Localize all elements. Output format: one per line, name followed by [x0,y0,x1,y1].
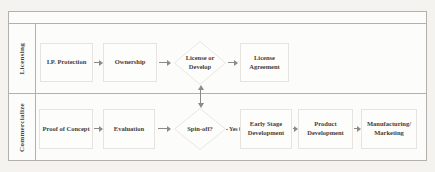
lane-label-commercialize: Commercialize [18,103,26,152]
decision-license-or-develop: License or Develop [174,41,226,85]
double-arrow-icon [197,85,204,108]
node-ownership-label: Ownership [115,58,146,67]
right-arrow-icon [354,125,361,132]
lane-commercialize: Commercialize Proof of Concept Evaluatio… [9,94,426,160]
frame-header-strip [9,12,426,24]
node-ownership: Ownership [103,43,157,82]
right-arrow-icon [94,125,103,132]
lane-content-licensing: I.P. Protection Ownership License or Dev… [36,24,426,93]
lane-label-licensing: Licensing [18,43,26,74]
node-ip-protection: I.P. Protection [40,43,93,82]
node-proof-of-concept-label: Proof of Concept [42,125,89,134]
node-proof-of-concept: Proof of Concept [39,109,93,149]
node-license-agreement: License Agreement [240,43,289,82]
yes-arrow: Yes [226,125,240,133]
lane-content-commercialize: Proof of Concept Evaluation Spin-off? Ye… [36,94,426,160]
decision-spin-off-label: Spin-off? [174,108,226,150]
lane-label-cell-commercialize: Commercialize [9,94,36,160]
node-ip-protection-label: I.P. Protection [47,58,87,67]
node-manufacturing-marketing: Manufacturing/ Marketing [361,109,417,149]
yes-label: Yes [228,126,239,132]
node-evaluation: Evaluation [103,109,155,149]
right-arrow-icon [228,59,238,66]
node-early-stage-development-label: Early Stage Development [243,120,289,138]
node-license-agreement-label: License Agreement [243,54,286,72]
node-evaluation-label: Evaluation [114,125,144,134]
lane-label-cell-licensing: Licensing [9,24,36,93]
right-arrow-icon [94,59,103,66]
node-product-development: Product Development [298,109,353,149]
node-manufacturing-marketing-label: Manufacturing/ Marketing [364,120,414,138]
right-arrow-icon [159,59,171,66]
connector-line [200,89,201,104]
node-early-stage-development: Early Stage Development [240,109,292,149]
swimlane-diagram-frame: Licensing I.P. Protection Ownership Lice… [8,11,427,161]
right-arrow-icon [158,125,171,132]
node-product-development-label: Product Development [301,120,350,138]
lane-licensing: Licensing I.P. Protection Ownership Lice… [9,24,426,94]
decision-spin-off: Spin-off? [174,108,226,150]
decision-license-or-develop-label: License or Develop [174,41,226,85]
